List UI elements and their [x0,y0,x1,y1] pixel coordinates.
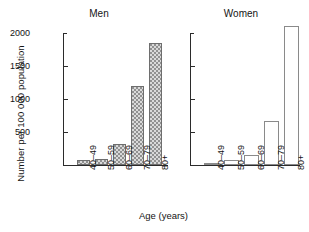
x-tick-label-men-70-79: 70–79 [142,145,152,170]
x-tick-label-women-60-69: 60–69 [256,145,266,170]
y-tick-label-1000: 1000 [10,94,30,104]
y-tick-label-1500: 1500 [10,61,30,71]
y-tick-label-500: 500 [15,127,30,137]
x-tick-label-women-50-59: 50–59 [236,145,246,170]
x-axis-title-wrap: Age (years) [0,210,309,221]
x-tick-label-men-60-69: 60–69 [124,145,134,170]
panel-men-plot: 40–49 50–59 60–69 70–79 80+ [30,0,170,232]
panel-women: Women 40–49 50–59 60–69 70–79 80+ [178,0,309,232]
panel-women-bars [178,0,309,232]
x-tick-label-men-40-49: 40–49 [88,145,98,170]
x-tick-label-men-80plus: 80+ [160,155,170,170]
x-axis-title: Age (years) [139,210,188,221]
panel-women-plot: 40–49 50–59 60–69 70–79 80+ [178,0,309,232]
x-tick-label-women-80plus: 80+ [296,155,306,170]
panel-men-bars [30,0,170,232]
y-tick-label-2000: 2000 [10,28,30,38]
y-axis-title: Number per 100 000 population [15,34,26,194]
x-tick-label-women-40-49: 40–49 [216,145,226,170]
panel-men: Men 40–49 50–59 60–69 70–79 80+ [30,0,170,232]
chart-figure: Number per 100 000 population 2000 1500 … [0,0,309,232]
x-tick-label-women-70-79: 70–79 [276,145,286,170]
x-tick-label-men-50-59: 50–59 [106,145,116,170]
bar-women-80plus [284,26,299,165]
